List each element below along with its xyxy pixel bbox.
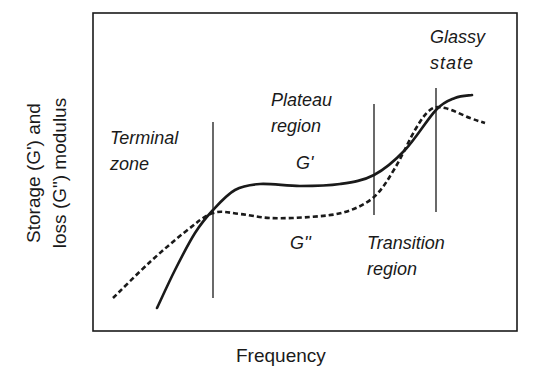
plateau-region-line2: region	[271, 116, 332, 137]
transition-region-line1: Transition	[367, 233, 445, 254]
y-axis-label-line2: loss (G") modulus	[49, 78, 71, 268]
glassy-state-line2: state	[430, 53, 485, 74]
terminal-zone-line2: zone	[110, 154, 178, 175]
plateau-region-label: Plateau region	[271, 90, 332, 137]
x-axis-label: Frequency	[236, 345, 326, 367]
y-axis-label: Storage (G') and loss (G") modulus	[23, 78, 71, 268]
transition-region-label: Transition region	[367, 233, 445, 280]
g-prime-label: G'	[296, 153, 313, 174]
terminal-zone-line1: Terminal	[110, 128, 178, 149]
plateau-region-line1: Plateau	[271, 90, 332, 111]
g-double-prime-label: G''	[290, 233, 311, 254]
y-axis-label-line1: Storage (G') and	[23, 78, 45, 268]
terminal-zone-label: Terminal zone	[110, 128, 178, 175]
glassy-state-label: Glassy state	[430, 27, 485, 74]
glassy-state-line1: Glassy	[430, 27, 485, 48]
transition-region-line2: region	[367, 259, 445, 280]
